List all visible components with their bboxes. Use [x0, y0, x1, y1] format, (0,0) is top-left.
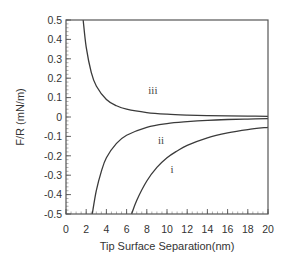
x-tick-label: 4 [103, 223, 109, 235]
curves [83, 20, 268, 214]
y-tick-label: -0.2 [44, 150, 62, 162]
x-axis-label: Tip Surface Separation(nm) [100, 240, 235, 252]
curve-iii [83, 20, 268, 116]
y-tick-label: 0.5 [47, 14, 62, 26]
curve-label-ii: ii [158, 134, 164, 146]
curve-label-iii: iii [148, 84, 157, 96]
x-tick-labels: 02468101214161820 [63, 223, 274, 235]
y-tick-label: 0.1 [47, 91, 62, 103]
x-tick-label: 0 [63, 223, 69, 235]
y-axis-label: F/R (mN/m) [14, 88, 26, 145]
curve-ii [92, 119, 268, 214]
y-tick-label: -0.5 [44, 208, 62, 220]
y-tick-label: 0.2 [47, 72, 62, 84]
x-tick-label: 10 [161, 223, 173, 235]
y-tick-label: -0.3 [44, 169, 62, 181]
x-tick-label: 8 [144, 223, 150, 235]
x-tick-label: 6 [124, 223, 130, 235]
y-tick-labels: 0.50.40.30.20.10-0.1-0.2-0.3-0.4-0.5 [44, 14, 62, 220]
curve-labels: iiiiii [148, 84, 173, 176]
plot-frame [66, 20, 268, 214]
x-tick-label: 2 [83, 223, 89, 235]
y-tick-label: -0.1 [44, 130, 62, 142]
curve-i [132, 127, 268, 214]
y-tick-label: 0.3 [47, 53, 62, 65]
x-tick-label: 14 [202, 223, 214, 235]
x-tick-label: 16 [222, 223, 234, 235]
y-tick-label: -0.4 [44, 188, 62, 200]
curve-label-i: i [171, 163, 174, 175]
chart: 02468101214161820 0.50.40.30.20.10-0.1-0… [0, 0, 287, 266]
y-tick-label: 0 [56, 111, 62, 123]
x-tick-label: 12 [181, 223, 193, 235]
minor-ticks [66, 20, 268, 214]
major-ticks [66, 20, 268, 214]
y-tick-label: 0.4 [47, 33, 62, 45]
x-tick-label: 18 [242, 223, 254, 235]
x-tick-label: 20 [262, 223, 274, 235]
